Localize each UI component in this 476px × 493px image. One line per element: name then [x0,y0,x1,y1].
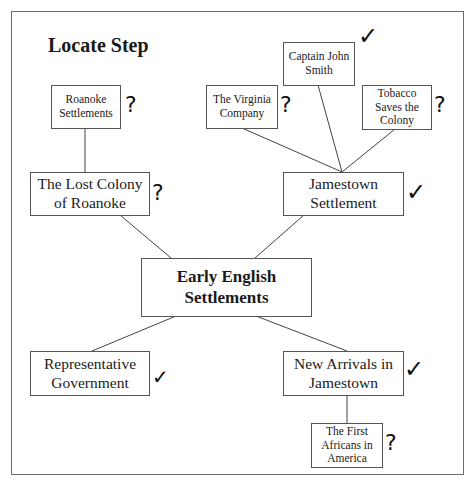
checkmark-icon: ✓ [358,22,378,50]
question-mark-icon: ? [152,180,164,205]
node-john-smith: Captain John Smith [283,42,355,86]
node-lost-colony: The Lost Colony of Roanoke [30,172,150,216]
node-tobacco: Tobacco Saves the Colony [362,85,432,130]
node-representative-government: Representative Government [30,351,150,396]
checkmark-icon: ✓ [404,355,424,383]
node-new-arrivals: New Arrivals in Jamestown [283,351,404,396]
question-mark-icon: ? [280,92,292,117]
question-mark-icon: ? [434,92,446,117]
checkmark-icon: ✓ [406,178,426,206]
checkmark-icon: ✓ [152,365,169,389]
node-virginia-company: The Virginia Company [206,85,278,129]
node-first-africans: The First Africans in America [311,423,383,468]
question-mark-icon: ? [385,430,397,455]
question-mark-icon: ? [125,92,137,117]
node-jamestown: Jamestown Settlement [283,172,404,216]
connector-lines [0,0,476,493]
node-roanoke-settlements: Roanoke Settlements [51,85,121,129]
node-center-early-english-settlements: Early English Settlements [141,258,312,317]
